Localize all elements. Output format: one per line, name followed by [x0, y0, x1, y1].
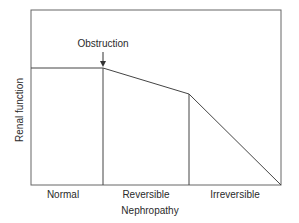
- obstruction-label: Obstruction: [77, 38, 128, 49]
- x-axis-label: Nephropathy: [121, 205, 178, 216]
- phase-label-normal: Normal: [47, 189, 79, 200]
- renal-function-line: [31, 68, 281, 185]
- phase-label-reversible: Reversible: [122, 189, 169, 200]
- arrow-down-icon: [100, 52, 106, 67]
- plot-frame: [31, 10, 281, 185]
- y-axis-label: Renal function: [14, 78, 25, 142]
- phase-label-irreversible: Irreversible: [210, 189, 259, 200]
